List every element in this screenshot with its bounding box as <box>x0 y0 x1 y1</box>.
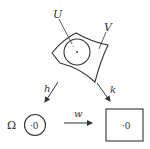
label-w: w <box>74 108 83 119</box>
label-k: k <box>110 84 116 95</box>
center-point-label: · <box>72 43 74 51</box>
arrow-k <box>97 83 110 101</box>
label-omega: Ω <box>7 119 16 132</box>
label-v: V <box>104 21 113 34</box>
diagram-canvas: · U V h k Ω ·0 w ·0 <box>0 0 150 149</box>
surface-v <box>52 33 108 82</box>
disk-omega-origin: ·0 <box>30 121 39 131</box>
u-leader-line <box>59 19 72 44</box>
center-point-dot <box>76 51 78 53</box>
label-u: U <box>53 8 63 21</box>
v-leader-line <box>99 32 106 49</box>
rectangle-origin: ·0 <box>122 121 131 131</box>
label-h: h <box>44 83 50 94</box>
